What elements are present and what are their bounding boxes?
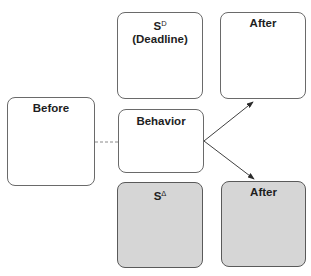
deadline-label: (Deadline) [118,33,202,46]
sd-deadline-box: SD (Deadline) [117,12,203,99]
s-delta-box: SΔ [117,182,203,268]
before-box: Before [7,97,95,186]
s-delta-label: SΔ [118,187,202,203]
after-bottom-box: After [221,181,306,267]
before-label: Before [8,102,94,115]
behavior-label: Behavior [119,115,203,128]
arrow-to-after-top [204,102,253,141]
arrow-to-after-bottom [204,141,254,179]
after-bottom-label: After [222,186,305,199]
behavior-box: Behavior [118,109,204,173]
sd-label: SD [118,17,202,33]
after-top-box: After [220,12,306,99]
after-top-label: After [221,17,305,30]
